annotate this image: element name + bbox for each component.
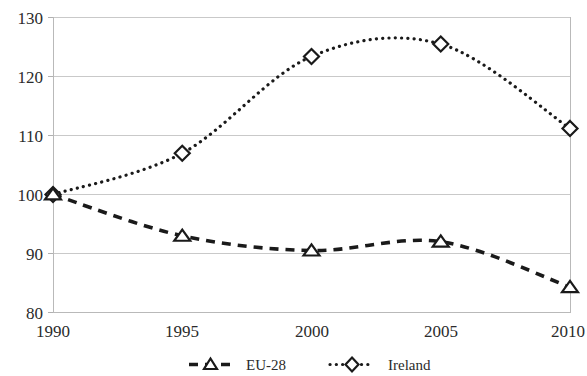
x-tick-label-1995: 1995 [165,322,199,341]
x-tick-label-2000: 2000 [295,322,329,341]
legend-marker-diamond-icon [346,358,359,372]
series-markers-ireland [46,37,578,202]
x-tick-label-2010: 2010 [551,322,585,341]
legend-item-ireland[interactable]: Ireland [330,357,431,373]
legend-item-eu28[interactable]: EU-28 [189,357,286,373]
y-tick-label-80: 80 [26,304,43,323]
data-point-diamond-marker [175,146,190,161]
line-chart: 130 120 110 100 90 80 1990 1995 2000 200… [0,0,587,376]
y-tick-label-110: 110 [18,127,43,146]
data-point-diamond-marker [433,37,448,52]
series-line-eu28 [53,195,570,288]
series-markers-eu28 [45,188,578,292]
y-tick-label-100: 100 [18,186,44,205]
chart-legend: EU-28 Ireland [189,357,431,373]
legend-label-eu28: EU-28 [246,357,286,373]
y-axis-labels: 130 120 110 100 90 80 [18,9,44,323]
x-axis-labels: 1990 1995 2000 2005 2010 [36,322,585,341]
y-tickmarks [48,18,53,313]
y-tick-label-120: 120 [18,68,44,87]
y-tick-label-90: 90 [26,245,43,264]
chart-canvas: 130 120 110 100 90 80 1990 1995 2000 200… [0,0,587,376]
data-point-diamond-marker [304,49,319,64]
x-tick-label-1990: 1990 [36,322,70,341]
data-point-diamond-marker [563,121,578,136]
x-tick-label-2005: 2005 [424,322,458,341]
data-point-triangle-marker [562,281,578,292]
y-tick-label-130: 130 [18,9,44,28]
legend-label-ireland: Ireland [388,357,431,373]
